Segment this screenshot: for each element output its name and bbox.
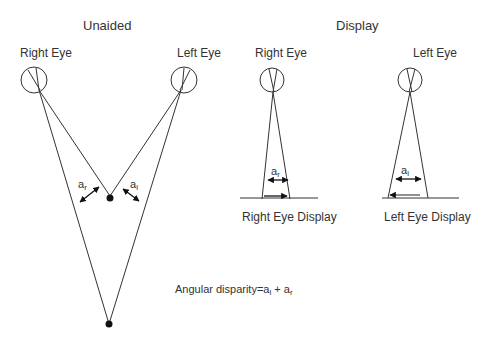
display-angle-right: ar <box>271 165 280 179</box>
far-point-dot <box>106 321 113 328</box>
display-angle-left: al <box>401 164 409 178</box>
display-right-eye-circle <box>260 68 284 92</box>
unaided-left-eye-label: Left Eye <box>177 46 221 60</box>
unaided-right-eye-label: Right Eye <box>20 46 72 60</box>
near-point-dot <box>107 195 114 202</box>
display-title: Display <box>336 18 379 33</box>
unaided-title: Unaided <box>83 18 131 33</box>
angular-disparity-formula: Angular disparity=al + ar <box>175 283 293 297</box>
unaided-angle-left: al <box>130 178 138 192</box>
unaided-angle-right: ar <box>78 178 87 192</box>
left-eye-display-label: Left Eye Display <box>384 210 471 224</box>
display-right-eye-label: Right Eye <box>255 46 307 60</box>
right-eye-display-label: Right Eye Display <box>242 210 337 224</box>
display-left-eye-label: Left Eye <box>413 46 457 60</box>
